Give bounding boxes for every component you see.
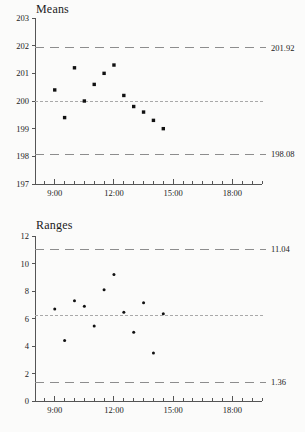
data-point <box>83 99 86 102</box>
data-point <box>102 72 105 75</box>
means-control-chart: Means 1971981992002012022039:0012:0015:0… <box>0 0 305 216</box>
data-point <box>93 83 96 86</box>
y-tick-label: 199 <box>16 124 29 134</box>
data-point <box>53 307 56 310</box>
data-point <box>73 66 76 69</box>
data-point <box>63 339 66 342</box>
y-tick-label: 203 <box>16 13 29 23</box>
data-point <box>142 110 145 113</box>
data-point <box>83 305 86 308</box>
x-tick-label: 9:00 <box>47 405 62 415</box>
data-point <box>93 325 96 328</box>
ucl-label: 201.92 <box>271 43 294 53</box>
ucl-label: 11.04 <box>271 244 291 254</box>
data-point <box>132 105 135 108</box>
lcl-label: 198.08 <box>271 149 294 159</box>
y-tick-label: 12 <box>21 231 30 241</box>
lcl-label: 1.36 <box>271 377 286 387</box>
y-tick-label: 10 <box>21 259 30 269</box>
y-tick-label: 200 <box>16 96 29 106</box>
y-tick-label: 201 <box>16 68 29 78</box>
y-tick-label: 6 <box>25 314 29 324</box>
y-tick-label: 202 <box>16 41 29 51</box>
data-point <box>162 312 165 315</box>
y-tick-label: 4 <box>25 341 30 351</box>
x-tick-label: 15:00 <box>163 405 182 415</box>
data-point <box>122 94 125 97</box>
data-point <box>152 119 155 122</box>
means-plot-area: 1971981992002012022039:0012:0015:0018:00… <box>0 0 305 216</box>
data-point <box>112 63 115 66</box>
data-point <box>122 311 125 314</box>
x-tick-label: 12:00 <box>104 188 123 198</box>
data-point <box>112 273 115 276</box>
data-point <box>162 127 165 130</box>
y-tick-label: 198 <box>16 151 29 161</box>
data-point <box>73 299 76 302</box>
x-tick-label: 12:00 <box>104 405 123 415</box>
y-tick-label: 8 <box>25 286 29 296</box>
data-point <box>103 288 106 291</box>
x-tick-label: 18:00 <box>223 405 242 415</box>
y-tick-label: 0 <box>25 396 29 406</box>
x-tick-label: 18:00 <box>223 188 242 198</box>
x-tick-label: 9:00 <box>47 188 62 198</box>
ranges-control-chart: Ranges 0246810129:0012:0015:0018:0011.04… <box>0 216 305 432</box>
y-tick-label: 197 <box>16 179 29 189</box>
data-point <box>142 301 145 304</box>
data-point <box>152 351 155 354</box>
data-point <box>63 116 66 119</box>
y-tick-label: 2 <box>25 369 29 379</box>
data-point <box>132 331 135 334</box>
data-point <box>53 88 56 91</box>
x-tick-label: 15:00 <box>163 188 182 198</box>
ranges-plot-area: 0246810129:0012:0015:0018:0011.041.36 <box>0 216 305 432</box>
